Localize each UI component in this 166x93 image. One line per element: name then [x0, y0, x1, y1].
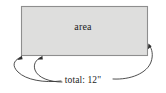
area-label: area	[0, 21, 166, 33]
leader-arrowhead-left-inner	[37, 56, 42, 60]
leader-arrowhead-left-outer	[17, 56, 22, 60]
geometry-figure: area total: 12"	[0, 0, 166, 93]
total-measurement-label: total: 12"	[0, 74, 166, 86]
